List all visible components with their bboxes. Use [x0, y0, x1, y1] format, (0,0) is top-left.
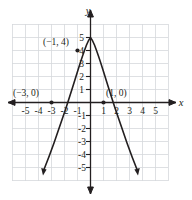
- chart-background: [0, 0, 192, 200]
- x-intercept-right-marker: [101, 100, 105, 104]
- vertex-point-marker: [75, 48, 79, 52]
- x-axis-label: x: [178, 97, 184, 108]
- x-intercept-left-marker: [49, 100, 53, 104]
- y-tick-label: -2: [78, 124, 86, 134]
- y-axis-label: y: [85, 5, 91, 16]
- coordinate-plane-figure: -5 -4 -3 -2 -1 1 2 3 4 5 5 4 3 2 1 -1 -2…: [0, 0, 192, 200]
- x-tick-label: 5: [153, 106, 158, 116]
- x-tick-label: -4: [35, 106, 43, 116]
- y-tick-label: -1: [78, 111, 86, 121]
- parabola-chart: -5 -4 -3 -2 -1 1 2 3 4 5 5 4 3 2 1 -1 -2…: [0, 0, 192, 200]
- x-tick-label: -3: [48, 106, 56, 116]
- x-tick-label: -5: [22, 106, 30, 116]
- y-tick-label: 2: [79, 72, 84, 82]
- y-tick-label: -3: [78, 137, 86, 147]
- x-tick-label: 4: [140, 106, 145, 116]
- y-tick-label: 5: [79, 33, 84, 43]
- x-intercept-right-label: (1, 0): [106, 88, 127, 99]
- y-tick-label: -4: [78, 150, 86, 160]
- y-tick-label: 1: [79, 85, 84, 95]
- y-tick-label: -5: [78, 163, 86, 173]
- x-tick-label: 1: [101, 106, 106, 116]
- x-tick-label: 3: [127, 106, 132, 116]
- vertex-label: (−1, 4): [43, 37, 69, 48]
- x-intercept-left-label: (−3, 0): [13, 88, 39, 99]
